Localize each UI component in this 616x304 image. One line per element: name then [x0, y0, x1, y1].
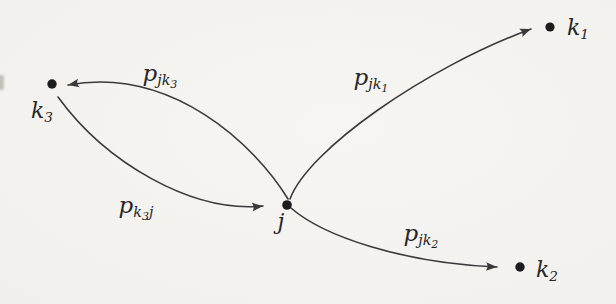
node-label-k3: k3	[31, 100, 53, 124]
edge-label-p-jk1: pjk1	[354, 66, 389, 94]
node-label-k2-sub: 2	[549, 268, 558, 284]
node-label-k1-text: k	[567, 15, 580, 40]
edge-k3-to-j	[58, 97, 263, 207]
node-label-k2: k2	[536, 259, 558, 283]
node-label-k2-text: k	[536, 257, 549, 282]
edge-label-p-jk3: pjk3	[143, 62, 178, 90]
node-dot-k2	[515, 262, 524, 271]
graph-figure	[0, 0, 616, 304]
edge-j-to-k3	[68, 82, 288, 199]
edge-j-to-k1	[290, 29, 531, 199]
node-label-k3-text: k	[31, 98, 44, 123]
node-dot-k1	[545, 22, 554, 31]
node-label-k1: k1	[567, 17, 589, 41]
diagram-canvas: j k1 k2 k3 pjk3 pk3j pjk1 pjk2	[0, 0, 616, 304]
node-label-k3-sub: 3	[44, 109, 53, 125]
edge-label-p-jk2: pjk2	[404, 222, 439, 250]
node-label-j: j	[278, 211, 285, 235]
node-label-j-text: j	[278, 209, 285, 234]
edge-label-p-k3j: pk3j	[119, 194, 154, 222]
edge-j-to-k2	[291, 208, 497, 267]
node-dot-k3	[47, 79, 56, 88]
node-label-k1-sub: 1	[580, 26, 589, 42]
